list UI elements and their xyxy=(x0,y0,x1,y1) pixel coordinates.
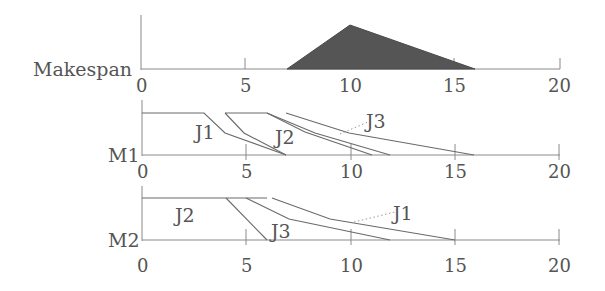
fuzzy-schedule-diagram: Makespan 0 5 10 15 20 M1 J1 J2 J3 0 5 10 xyxy=(0,0,605,291)
m1-j2-label: J2 xyxy=(273,126,295,148)
m2-panel: M2 J2 J3 J1 0 5 10 15 20 xyxy=(108,186,571,276)
tick-label-0: 0 xyxy=(136,75,147,96)
tick-label-15: 15 xyxy=(444,255,467,276)
tick-label-20: 20 xyxy=(548,161,571,182)
m1-label: M1 xyxy=(108,144,140,166)
m2-j2-label: J2 xyxy=(173,204,195,226)
tick-label-0: 0 xyxy=(137,161,148,182)
makespan-panel: Makespan 0 5 10 15 20 xyxy=(33,15,571,96)
m1-j3-leader xyxy=(340,122,368,134)
tick-label-0: 0 xyxy=(137,255,148,276)
m2-j3-curve xyxy=(246,198,390,240)
tick-label-15: 15 xyxy=(443,75,466,96)
m2-label: M2 xyxy=(108,229,140,251)
m2-j1-label: J1 xyxy=(391,202,413,224)
tick-label-15: 15 xyxy=(444,161,467,182)
m1-j3-label: J3 xyxy=(364,110,386,132)
m2-j3-label: J3 xyxy=(269,220,291,242)
m2-j1-curve xyxy=(272,198,455,240)
tick-label-5: 5 xyxy=(241,255,252,276)
makespan-triangle xyxy=(287,25,475,69)
tick-label-20: 20 xyxy=(548,255,571,276)
tick-label-10: 10 xyxy=(339,75,362,96)
m1-panel: M1 J1 J2 J3 0 5 10 15 20 xyxy=(108,100,571,182)
makespan-label: Makespan xyxy=(33,58,132,80)
tick-label-20: 20 xyxy=(548,75,571,96)
m1-j1-label: J1 xyxy=(193,121,215,143)
tick-label-10: 10 xyxy=(340,255,363,276)
tick-label-5: 5 xyxy=(240,75,251,96)
tick-label-5: 5 xyxy=(241,161,252,182)
m2-j1-leader xyxy=(354,212,395,222)
tick-label-10: 10 xyxy=(340,161,363,182)
